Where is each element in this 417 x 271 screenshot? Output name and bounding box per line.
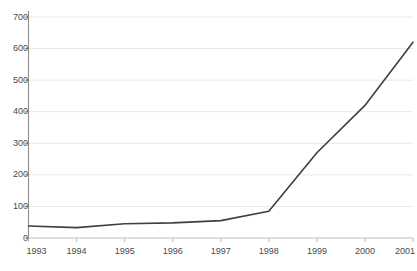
axis-group [28, 11, 414, 240]
xtick-mark-group [29, 238, 414, 242]
chart-canvas [0, 0, 417, 271]
y-tick-label: 300 [2, 139, 28, 148]
data-line [29, 42, 414, 227]
x-tick-label: 1993 [27, 247, 47, 256]
x-tick-label: 2001 [395, 247, 415, 256]
y-tick-label: 0 [2, 234, 28, 243]
y-tick-label: 400 [2, 107, 28, 116]
y-tick-label: 600 [2, 44, 28, 53]
x-tick-label: 1994 [67, 247, 87, 256]
y-tick-label: 500 [2, 76, 28, 85]
x-tick-label: 1999 [307, 247, 327, 256]
y-tick-label: 200 [2, 170, 28, 179]
x-tick-label: 1998 [259, 247, 279, 256]
line-chart: 0100200300400500600700 19931994199519961… [0, 0, 417, 271]
gridline-group [29, 17, 414, 206]
y-tick-label: 100 [2, 202, 28, 211]
x-tick-label: 1997 [211, 247, 231, 256]
y-tick-label: 700 [2, 13, 28, 22]
x-tick-label: 1996 [163, 247, 183, 256]
x-tick-label: 2000 [355, 247, 375, 256]
data-series-group [29, 42, 414, 227]
x-axis-tick-labels: 199319941995199619971998199920002001 [0, 247, 417, 265]
y-axis-tick-labels: 0100200300400500600700 [0, 0, 28, 271]
x-tick-label: 1995 [115, 247, 135, 256]
